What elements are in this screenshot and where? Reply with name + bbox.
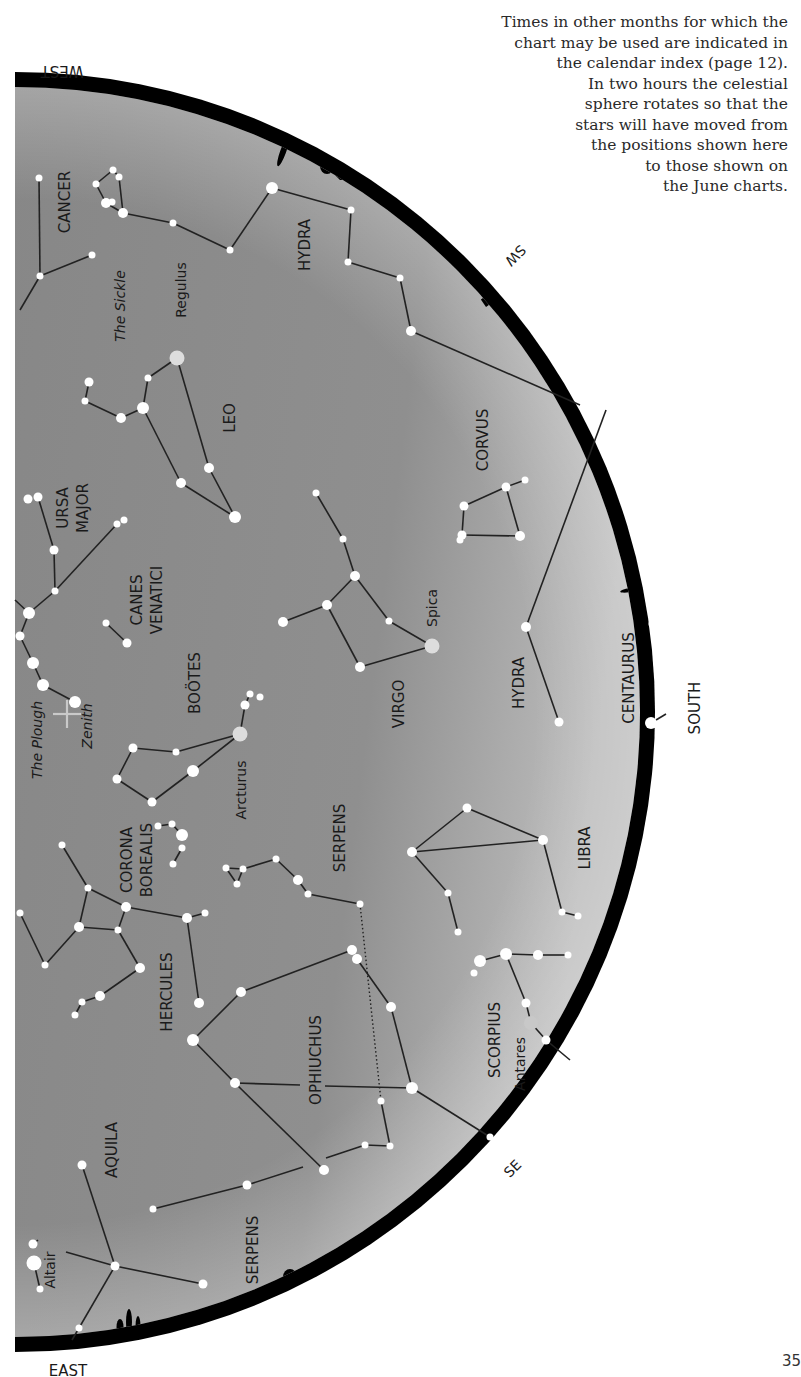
- constellation-label: OPHIUCHUS: [307, 1015, 325, 1105]
- star-icon: [241, 701, 250, 710]
- constellation-label: LEO: [221, 403, 239, 433]
- star-icon: [118, 208, 128, 218]
- constellation-label: CORONA: [118, 826, 136, 893]
- star-icon: [386, 1002, 396, 1012]
- star-icon: [37, 679, 49, 691]
- star-icon: [202, 910, 209, 917]
- star-icon: [173, 749, 180, 756]
- star-icon: [460, 502, 469, 511]
- star-icon: [378, 1098, 385, 1105]
- tree-icon: [514, 1115, 526, 1129]
- star-icon: [116, 413, 126, 423]
- constellation-line: [365, 1145, 390, 1146]
- compass-label-south: SOUTH: [686, 682, 704, 735]
- star-icon: [463, 804, 472, 813]
- constellation-line: [39, 178, 40, 276]
- star-icon: [425, 639, 440, 654]
- star-icon: [170, 220, 177, 227]
- star-icon: [502, 483, 511, 492]
- star-icon: [110, 167, 117, 174]
- star-icon: [111, 1262, 120, 1271]
- compass-label-sw: SW: [502, 242, 529, 269]
- star-icon: [348, 207, 355, 214]
- star-icon: [187, 1034, 199, 1046]
- star-icon: [76, 1325, 83, 1332]
- star-icon: [445, 890, 452, 897]
- star-icon: [148, 798, 157, 807]
- star-icon: [387, 1143, 394, 1150]
- star-icon: [522, 477, 529, 484]
- star-icon: [645, 717, 657, 729]
- star-icon: [42, 962, 49, 969]
- star-icon: [223, 865, 230, 872]
- star-icon: [109, 199, 116, 206]
- star-icon: [455, 929, 462, 936]
- star-icon: [230, 1078, 240, 1088]
- star-icon: [471, 970, 478, 977]
- star-icon: [240, 866, 247, 873]
- star-icon: [227, 247, 234, 254]
- star-icon: [52, 588, 59, 595]
- constellation-label: MAJOR: [74, 483, 92, 533]
- constellation-label: SERPENS: [331, 804, 349, 873]
- star-icon: [29, 1240, 38, 1249]
- star-icon: [293, 875, 303, 885]
- constellation-label: URSA: [54, 487, 72, 529]
- star-icon: [278, 617, 288, 627]
- constellation-label: SERPENS: [244, 1216, 262, 1285]
- star-icon: [123, 639, 132, 648]
- constellation-line: [54, 550, 55, 591]
- star-icon: [340, 536, 347, 543]
- star-icon: [59, 842, 66, 849]
- star-icon: [352, 954, 362, 964]
- star-icon: [538, 835, 548, 845]
- star-icon: [555, 718, 564, 727]
- compass-label-east: EAST: [49, 1362, 88, 1377]
- star-icon: [17, 910, 24, 917]
- star-icon: [95, 991, 105, 1001]
- star-icon: [350, 571, 360, 581]
- star-icon: [386, 618, 393, 625]
- star-icon: [150, 1206, 157, 1213]
- star-icon: [179, 845, 186, 852]
- caption-line: to those shown on: [458, 156, 788, 177]
- star-icon: [524, 1016, 538, 1030]
- constellation-label: BOÖTES: [185, 652, 204, 714]
- star-icon: [649, 620, 658, 629]
- constellation-label: Antares: [512, 1037, 528, 1091]
- star-icon: [37, 273, 44, 280]
- constellation-label: Arcturus: [233, 760, 249, 819]
- constellation-label: VIRGO: [390, 680, 408, 729]
- star-icon: [27, 657, 39, 669]
- star-icon: [176, 829, 188, 841]
- constellation-label: HYDRA: [296, 218, 314, 271]
- star-icon: [515, 531, 525, 541]
- star-icon: [266, 182, 278, 194]
- star-icon: [85, 885, 92, 892]
- star-icon: [121, 517, 128, 524]
- star-icon: [487, 1134, 494, 1141]
- star-icon: [50, 546, 59, 555]
- constellation-label: The Plough: [29, 701, 45, 779]
- star-icon: [234, 881, 241, 888]
- caption-line: chart may be used are indicated in: [458, 33, 788, 54]
- star-icon: [406, 1082, 418, 1094]
- star-icon: [362, 1142, 369, 1149]
- tree-icon: [579, 1025, 587, 1035]
- star-icon: [357, 901, 364, 908]
- star-icon: [194, 998, 204, 1008]
- star-icon: [257, 694, 264, 701]
- star-icon: [114, 521, 121, 528]
- star-icon: [565, 952, 572, 959]
- star-icon: [575, 913, 582, 920]
- compass-label-west: WEST: [40, 62, 84, 80]
- star-icon: [407, 847, 417, 857]
- constellation-label: CANCER: [56, 171, 74, 233]
- star-icon: [170, 351, 185, 366]
- compass-label-se: SE: [501, 1157, 525, 1181]
- star-icon: [397, 275, 404, 282]
- caption-line: the positions shown here: [458, 135, 788, 156]
- star-icon: [129, 744, 138, 753]
- star-icon: [116, 174, 123, 181]
